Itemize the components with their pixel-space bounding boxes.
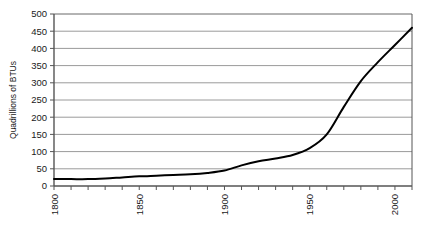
chart-background: [0, 0, 430, 232]
y-tick-label-100: 100: [31, 146, 47, 157]
chart-container: 050100150200250300350400450500 180018501…: [0, 0, 430, 232]
x-tick-label-1900: 1900: [219, 194, 230, 215]
x-tick-label-2000: 2000: [389, 194, 400, 215]
y-tick-label-500: 500: [31, 8, 47, 19]
x-tick-label-1950: 1950: [304, 194, 315, 215]
y-tick-label-150: 150: [31, 129, 47, 140]
y-tick-label-350: 350: [31, 60, 47, 71]
y-tick-label-200: 200: [31, 112, 47, 123]
y-tick-label-250: 250: [31, 94, 47, 105]
y-tick-label-300: 300: [31, 77, 47, 88]
x-tick-label-1850: 1850: [134, 194, 145, 215]
x-tick-label-1800: 1800: [49, 194, 60, 215]
y-axis-title: Quadrillions of BTUs: [8, 61, 18, 139]
line-chart: 050100150200250300350400450500 180018501…: [0, 0, 430, 232]
y-tick-label-50: 50: [36, 163, 47, 174]
y-tick-label-0: 0: [42, 180, 47, 191]
y-tick-label-400: 400: [31, 43, 47, 54]
y-tick-label-450: 450: [31, 26, 47, 37]
